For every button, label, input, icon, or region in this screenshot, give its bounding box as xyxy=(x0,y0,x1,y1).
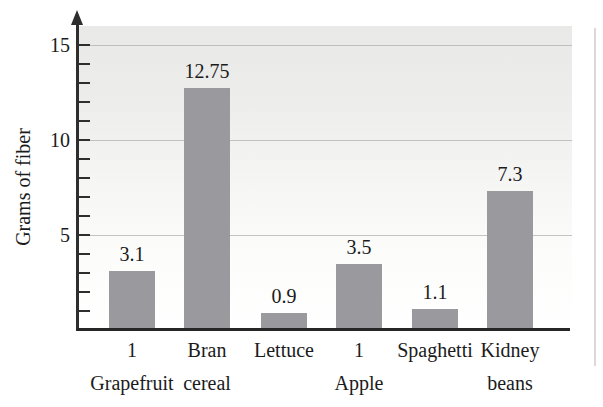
bar-1-grapefruit xyxy=(109,271,155,328)
bar-lettuce xyxy=(261,313,307,328)
y-minor-tick-11 xyxy=(79,120,90,122)
y-minor-tick-4 xyxy=(79,253,90,255)
y-minor-tick-14 xyxy=(79,63,90,65)
bar-value-label: 1.1 xyxy=(423,281,448,303)
y-minor-tick-3 xyxy=(79,272,90,274)
category-label-line: cereal xyxy=(132,367,282,400)
x-axis-baseline xyxy=(77,328,570,331)
y-minor-tick-9 xyxy=(79,158,90,160)
bar-chart-figure: 51015 Grams of fiber 3.11Grapefruit12.75… xyxy=(0,0,603,407)
y-axis-arrow-icon xyxy=(71,10,83,25)
bar-spaghetti xyxy=(412,309,458,328)
y-minor-tick-15 xyxy=(79,44,90,46)
y-minor-tick-13 xyxy=(79,82,90,84)
category-label: Kidneybeans xyxy=(435,334,585,400)
y-tick-label-15: 15 xyxy=(28,35,70,55)
gridline-10 xyxy=(78,140,572,141)
bar-value-label: 7.3 xyxy=(498,163,523,185)
bar-value-label: 12.75 xyxy=(185,60,230,82)
bar-value-label: 0.9 xyxy=(272,285,297,307)
bar-value-label: 3.1 xyxy=(120,243,145,265)
y-minor-tick-6 xyxy=(79,215,90,217)
bar-kidney-beans xyxy=(487,191,533,328)
bar-1-apple xyxy=(336,264,382,329)
page-edge-line xyxy=(594,28,596,366)
bar-bran-cereal xyxy=(184,88,230,328)
y-minor-tick-12 xyxy=(79,101,90,103)
gridline-15 xyxy=(78,45,572,46)
y-minor-tick-7 xyxy=(79,196,90,198)
y-minor-tick-5 xyxy=(79,234,90,236)
y-minor-tick-8 xyxy=(79,177,90,179)
y-minor-tick-10 xyxy=(79,139,90,141)
category-label-line: beans xyxy=(435,367,585,400)
category-label-line: Kidney xyxy=(435,334,585,367)
y-minor-tick-2 xyxy=(79,291,90,293)
category-label-line: Apple xyxy=(284,367,434,400)
y-minor-tick-1 xyxy=(79,310,90,312)
bar-value-label: 3.5 xyxy=(347,236,372,258)
y-axis-title: Grams of fiber xyxy=(12,128,35,246)
